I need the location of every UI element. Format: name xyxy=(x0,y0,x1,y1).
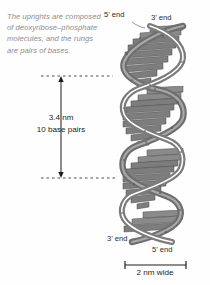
width-annotation: 2 nm wide xyxy=(116,268,194,277)
annotation-lines xyxy=(0,0,210,285)
pitch-annotation: 3.4 nm 10 base pairs xyxy=(14,112,108,135)
dna-helix-figure: The uprights are composed of deoxyribose… xyxy=(0,0,210,285)
pitch-value: 3.4 nm xyxy=(14,112,108,124)
label-5-prime-end-top: 5’ end xyxy=(104,10,124,19)
label-5-prime-end-bottom: 5’ end xyxy=(152,245,172,254)
label-3-prime-end-bottom: 3’ end xyxy=(107,234,127,243)
five-prime-leader-line xyxy=(132,22,145,28)
label-3-prime-end-top: 3’ end xyxy=(151,13,171,22)
pitch-detail: 10 base pairs xyxy=(14,124,108,136)
